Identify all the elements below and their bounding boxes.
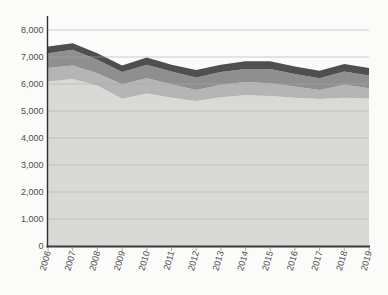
x-axis-tick-label: 2010 [137, 250, 152, 272]
scanned-page: 01,0002,0003,0004,0005,0006,0007,0008,00… [0, 0, 388, 295]
y-axis-tick-label: 5,000 [21, 106, 44, 116]
y-axis-tick-label: 6,000 [21, 79, 44, 89]
stacked-area-chart: 01,0002,0003,0004,0005,0006,0007,0008,00… [0, 0, 388, 295]
x-axis-tick-label: 2016 [285, 250, 300, 272]
y-axis-tick-label: 2,000 [21, 187, 44, 197]
chart-canvas: 01,0002,0003,0004,0005,0006,0007,0008,00… [0, 0, 388, 295]
x-axis-tick-label: 2013 [211, 250, 226, 272]
y-axis-tick-label: 7,000 [21, 52, 44, 62]
area-layer-1-bottom-lightest [48, 79, 369, 246]
x-axis-tick-label: 2009 [112, 250, 127, 272]
y-axis-tick-label: 3,000 [21, 160, 44, 170]
y-axis-tick-label: 0 [38, 241, 43, 251]
y-axis-tick-label: 8,000 [21, 25, 44, 35]
x-axis-tick-label: 2017 [309, 250, 324, 272]
x-axis-tick-label: 2007 [62, 250, 77, 272]
x-axis-tick-label: 2015 [260, 250, 275, 272]
y-axis-tick-label: 1,000 [21, 214, 44, 224]
y-axis-tick-label: 4,000 [21, 133, 44, 143]
x-axis-tick-label: 2008 [87, 250, 102, 272]
x-axis-tick-label: 2011 [161, 250, 176, 271]
x-axis-tick-label: 2012 [186, 250, 201, 272]
x-axis-tick-label: 2018 [334, 250, 349, 272]
x-axis-tick-label: 2014 [235, 250, 250, 272]
x-axis-tick-label: 2019 [359, 250, 374, 272]
x-axis-tick-label: 2006 [38, 250, 53, 272]
